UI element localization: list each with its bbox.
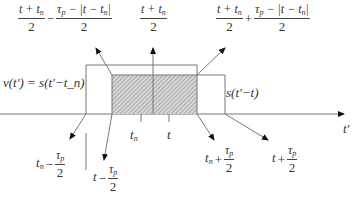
overlap-region — [112, 75, 197, 114]
arrow-bottom-2 — [104, 114, 112, 160]
label-reference-pulse: s(t'−t) — [226, 86, 259, 99]
label-pulse2-end: t+τp2 — [272, 144, 297, 174]
label-overlap-end: t + tn2+τp − |t − tn|2 — [216, 3, 310, 33]
arrow-bottom-3 — [197, 114, 214, 140]
tick-label-t: t — [167, 128, 171, 141]
label-overlap-center: t + tn2 — [140, 3, 167, 33]
arrow-bottom-4 — [225, 114, 268, 140]
axis-label: t' — [343, 122, 349, 135]
tick-label-tn: tn — [130, 128, 138, 143]
label-received-pulse: v(t') = s(t'−t_n) — [3, 76, 85, 89]
label-pulse2-start: t−τp2 — [93, 163, 118, 193]
label-pulse1-start: tn−τp2 — [36, 149, 65, 179]
arrow-top-right — [197, 48, 225, 75]
label-overlap-start: t + tn2−τp − |t − tn|2 — [18, 3, 112, 33]
arrow-top-left — [96, 48, 112, 75]
arrow-bottom-1 — [70, 114, 86, 139]
label-pulse1-end: tn+τp2 — [205, 144, 234, 174]
